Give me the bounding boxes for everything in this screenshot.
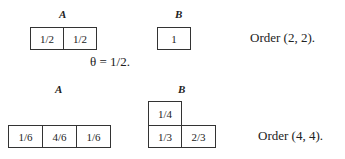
diagram-b-label: B (178, 83, 185, 95)
a-cell: 1/2 (30, 27, 64, 50)
a-cell: 1/6 (8, 125, 43, 148)
b-cell: 1/3 (148, 125, 182, 148)
order-label: Order (4, 4). (258, 128, 323, 144)
a-cell: 1/6 (76, 125, 111, 148)
b-cell: 1 (157, 27, 191, 50)
order-label: Order (2, 2). (250, 30, 315, 46)
a-cell: 4/6 (42, 125, 77, 148)
diagram-b-label: B (175, 8, 182, 20)
b-cell: 2/3 (181, 125, 216, 148)
diagram-a-label: A (55, 83, 62, 95)
theta-equation: θ = 1/2. (90, 54, 130, 70)
diagram-a-label: A (59, 8, 66, 20)
a-cell: 1/2 (63, 27, 97, 50)
b-cell: 1/4 (148, 101, 182, 126)
